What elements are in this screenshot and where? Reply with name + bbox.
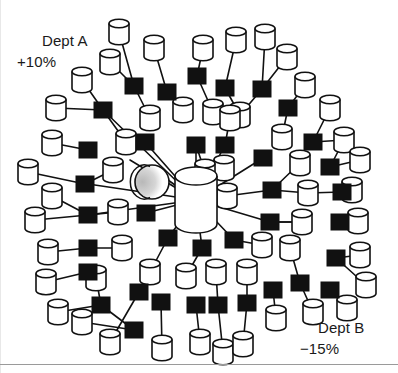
database-node xyxy=(109,19,129,44)
database-node xyxy=(356,272,376,297)
switch-node xyxy=(92,297,110,313)
switch-node xyxy=(333,184,351,200)
database-node xyxy=(255,24,275,49)
dept-a-delta: +10% xyxy=(17,54,56,69)
switch-node xyxy=(238,295,256,311)
database-node xyxy=(217,183,237,208)
switch-node xyxy=(79,207,97,223)
switch-node xyxy=(253,81,271,97)
database-node xyxy=(280,235,300,260)
database-node xyxy=(103,157,123,182)
switch-node xyxy=(136,134,154,150)
bottom-divider-rule xyxy=(0,364,398,365)
switch-node xyxy=(94,102,112,118)
switch-node xyxy=(263,182,281,198)
central-database-hub xyxy=(175,167,217,233)
database-node xyxy=(173,97,193,122)
database-node xyxy=(337,295,357,320)
switch-node xyxy=(188,68,206,84)
database-node xyxy=(46,95,66,120)
database-node xyxy=(290,150,310,175)
switch-node xyxy=(137,205,155,221)
database-node xyxy=(252,232,272,257)
central-hub-layer xyxy=(175,167,217,233)
switch-node xyxy=(321,282,339,298)
database-node xyxy=(108,199,128,224)
switch-node xyxy=(321,159,339,175)
database-node xyxy=(348,208,368,233)
switch-node xyxy=(79,142,97,158)
database-node xyxy=(350,147,370,172)
database-node xyxy=(272,124,292,149)
switch-node xyxy=(216,80,234,96)
database-node xyxy=(25,207,45,232)
database-node xyxy=(112,235,132,260)
switch-node xyxy=(130,284,148,300)
switch-node xyxy=(225,232,243,248)
database-node xyxy=(213,339,233,364)
switch-node xyxy=(291,275,309,291)
database-node xyxy=(72,67,92,92)
database-node xyxy=(233,331,253,356)
database-node xyxy=(38,239,58,264)
switch-node xyxy=(158,84,176,100)
switch-node xyxy=(209,297,227,313)
dept-b-delta: −15% xyxy=(300,341,339,356)
network-topology-graphic xyxy=(0,0,398,373)
globe-node xyxy=(130,165,169,199)
globe-node-layer xyxy=(130,165,169,199)
database-node xyxy=(48,299,68,324)
database-node xyxy=(72,309,92,334)
dept-a-label: Dept A xyxy=(42,33,88,48)
switch-node xyxy=(159,230,177,246)
switch-node xyxy=(279,100,297,116)
database-node xyxy=(100,329,120,354)
switch-node xyxy=(187,137,205,153)
database-node xyxy=(42,183,62,208)
database-node xyxy=(226,27,246,52)
database-node xyxy=(206,259,226,284)
database-node xyxy=(237,259,257,284)
switch-node xyxy=(216,137,234,153)
database-node xyxy=(140,105,160,130)
database-node xyxy=(190,329,210,354)
database-node xyxy=(116,129,136,154)
diagram-canvas: Dept A +10% Dept B −15% xyxy=(0,0,398,373)
switch-node xyxy=(264,282,282,298)
switch-node xyxy=(193,240,211,256)
database-node xyxy=(144,35,164,60)
dept-b-label: Dept B xyxy=(318,320,364,335)
database-node xyxy=(36,269,56,294)
database-node xyxy=(100,49,120,74)
switch-node xyxy=(125,78,143,94)
switch-node xyxy=(79,264,97,280)
switch-node xyxy=(254,150,272,166)
database-node xyxy=(42,130,62,155)
database-node xyxy=(292,209,312,234)
database-node xyxy=(350,242,370,267)
switch-node xyxy=(125,322,143,338)
switch-node xyxy=(327,250,345,266)
database-node xyxy=(295,72,315,97)
switch-node xyxy=(152,294,170,310)
switch-node xyxy=(261,214,279,230)
database-node xyxy=(193,35,213,60)
database-node xyxy=(176,263,196,288)
database-node xyxy=(152,335,172,360)
switch-node xyxy=(331,214,349,230)
switch-node xyxy=(304,134,322,150)
database-node xyxy=(277,44,297,69)
database-node xyxy=(18,159,38,184)
switch-node xyxy=(76,176,94,192)
database-node xyxy=(266,305,286,330)
database-node xyxy=(298,180,318,205)
database-node xyxy=(320,95,340,120)
database-node xyxy=(220,105,240,130)
switch-node xyxy=(187,297,205,313)
database-node xyxy=(140,259,160,284)
switch-node xyxy=(79,240,97,256)
